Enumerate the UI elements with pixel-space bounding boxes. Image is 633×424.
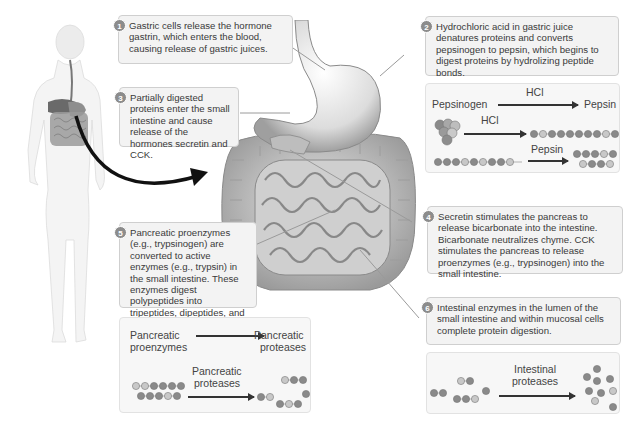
- step-3-number-icon: 3: [114, 91, 127, 104]
- polypeptide-beads: [120, 318, 312, 414]
- step-5-box: 5 Pancreatic proenzymes (e.g., trypsinog…: [119, 222, 257, 308]
- step-3-text: Partially digested proteins enter the sm…: [130, 92, 232, 160]
- step-4-number-icon: 4: [422, 210, 435, 223]
- step-5-text: Pancreatic proenzymes (e.g., trypsinogen…: [130, 227, 250, 330]
- step-2-number-icon: 2: [420, 20, 433, 33]
- step-1-number-icon: 1: [113, 19, 126, 32]
- pepsin-reaction-panel: Pepsinogen HCl Pepsin HCl Pepsin: [425, 83, 620, 173]
- step-4-text: Secretin stimulates the pancreas to rele…: [438, 211, 616, 279]
- step-6-box: 6 Intestinal enzymes in the lumen of the…: [426, 297, 621, 345]
- step-2-text: Hydrochloric acid in gastric juice denat…: [436, 21, 612, 78]
- intestinal-protease-panel: Intestinal proteases: [426, 352, 620, 414]
- step-1-box: 1 Gastric cells release the hormone gast…: [118, 15, 293, 64]
- protein-beads: [426, 84, 621, 174]
- step-5-number-icon: 5: [114, 226, 127, 239]
- step-3-box: 3 Partially digested proteins enter the …: [119, 87, 239, 147]
- step-6-text: Intestinal enzymes in the lumen of the s…: [437, 302, 614, 336]
- step-4-box: 4 Secretin stimulates the pancreas to re…: [427, 206, 623, 274]
- step-2-box: 2 Hydrochloric acid in gastric juice den…: [425, 16, 619, 76]
- peptide-beads: [427, 353, 621, 415]
- pancreatic-protease-panel: Pancreatic proenzymes Pancreatic proteas…: [119, 317, 311, 413]
- step-1-text: Gastric cells release the hormone gastri…: [129, 20, 286, 54]
- step-6-number-icon: 6: [421, 301, 434, 314]
